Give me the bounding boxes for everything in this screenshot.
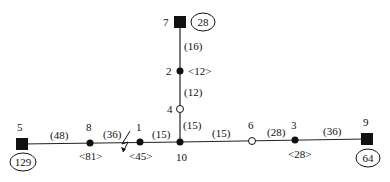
node-5-label: 5 [17, 121, 23, 133]
edge-right [180, 139, 366, 142]
edge-4-10-weight: (15) [183, 119, 202, 132]
node-9-source [361, 133, 373, 145]
node-4-open [177, 106, 184, 113]
node-9-badge: 64 [363, 152, 375, 164]
node-3 [292, 137, 299, 144]
edge-3-9-weight: (36) [323, 125, 342, 138]
node-8-label: 8 [86, 121, 92, 133]
node-1-load: <45> [129, 150, 152, 162]
edge-2-4-weight: (12) [184, 86, 203, 99]
node-10 [177, 139, 184, 146]
node-4-label: 4 [167, 103, 173, 115]
edge-7-2-weight: (16) [184, 40, 203, 53]
node-2 [177, 68, 184, 75]
node-8-load: <81> [79, 150, 102, 162]
edge-left [21, 142, 180, 144]
edge-8-1-weight: (36) [103, 128, 122, 141]
edge-5-8-weight: (48) [50, 129, 69, 142]
network-diagram: 7 28 (16) 2 <12> (12) 4 (15) 10 1 <45> (… [0, 0, 390, 182]
edge-6-3-weight: (28) [267, 126, 286, 139]
node-2-load: <12> [188, 65, 211, 77]
node-5-badge: 129 [15, 156, 32, 168]
node-9-label: 9 [363, 116, 369, 128]
node-5-source [16, 138, 28, 150]
edge-10-6-weight: (15) [212, 127, 231, 140]
node-8 [87, 140, 94, 147]
node-6-label: 6 [248, 119, 254, 131]
node-7-label: 7 [163, 16, 169, 28]
node-10-label: 10 [176, 151, 188, 163]
node-1 [137, 139, 144, 146]
node-3-load: <28> [288, 148, 311, 160]
node-7-source [174, 16, 186, 28]
node-2-label: 2 [166, 65, 172, 77]
node-7-badge: 28 [198, 16, 210, 28]
edge-1-10-weight: (15) [152, 128, 171, 141]
node-1-label: 1 [136, 121, 142, 133]
node-3-label: 3 [291, 119, 297, 131]
node-6-open [249, 138, 256, 145]
